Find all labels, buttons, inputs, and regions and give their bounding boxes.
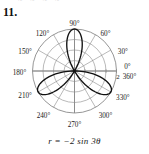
polar-figure: ~ ~ ~ ~ 11. 0°30°60°90°120°150°180°210°2…	[0, 0, 149, 154]
angle-label-330: 330°	[116, 94, 130, 102]
angle-label-120: 120°	[36, 30, 50, 38]
angle-label-60: 60°	[100, 30, 110, 38]
polar-plot: 0°30°60°90°120°150°180°210°240°270°300°3…	[0, 14, 149, 134]
angle-label-180: 180°	[13, 69, 27, 77]
angle-label-240: 240°	[37, 112, 51, 120]
angle-label-210: 210°	[18, 92, 32, 100]
polar-plot-svg: 0°30°60°90°120°150°180°210°240°270°300°3…	[0, 14, 149, 134]
page-bleed-text: ~ ~ ~ ~	[18, 0, 134, 5]
angle-label-90: 90°	[69, 20, 79, 28]
angle-label-270: 270°	[68, 121, 82, 129]
angle-label-360: 360°	[123, 73, 137, 81]
radius-tick-label-2: 2	[116, 73, 120, 80]
angle-label-150: 150°	[18, 48, 32, 56]
angle-label-300: 300°	[99, 112, 113, 120]
equation-caption: r = −2 sin 3θ	[0, 136, 149, 146]
angle-label-0: 0°	[124, 63, 131, 71]
angle-label-30: 30°	[118, 48, 128, 56]
